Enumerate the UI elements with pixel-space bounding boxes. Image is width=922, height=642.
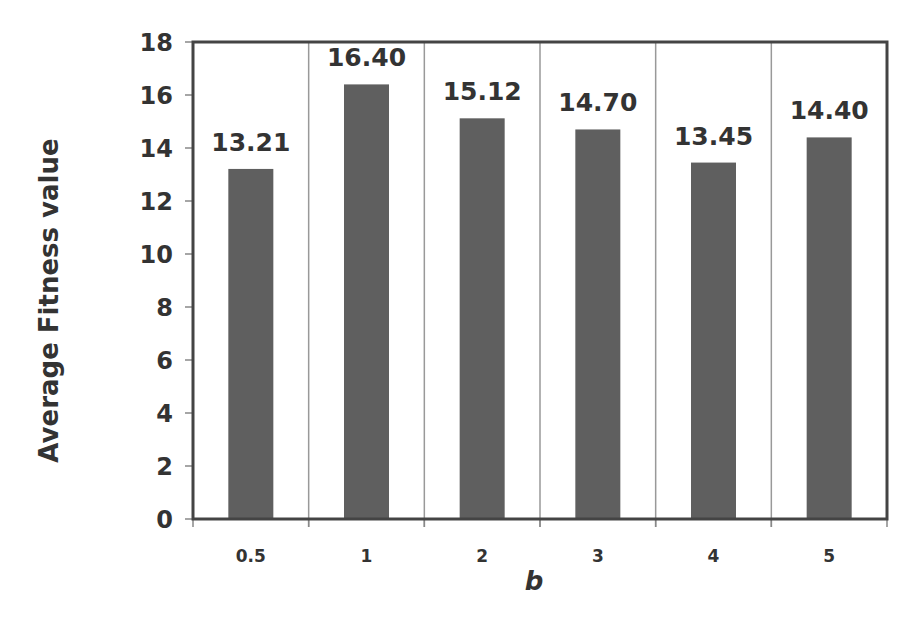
bar <box>807 137 852 519</box>
x-tick-label: 5 <box>823 546 835 566</box>
y-tick-label: 6 <box>156 347 173 375</box>
x-axis-title: b <box>525 566 544 596</box>
y-tick-label: 10 <box>140 241 173 269</box>
y-tick-label: 18 <box>140 29 173 57</box>
bar <box>228 169 273 519</box>
y-tick-label: 14 <box>140 135 173 163</box>
x-tick-label: 0.5 <box>236 546 266 566</box>
data-label: 14.70 <box>558 88 637 117</box>
y-tick-label: 4 <box>156 400 173 428</box>
data-label: 14.40 <box>790 96 869 125</box>
x-tick-label: 3 <box>592 546 604 566</box>
x-tick-label: 4 <box>708 546 720 566</box>
data-label: 13.45 <box>674 122 753 151</box>
bar <box>691 163 736 519</box>
y-axis-title: Average Fitness value <box>34 138 64 462</box>
x-tick-label: 1 <box>361 546 373 566</box>
y-tick-label: 16 <box>140 82 173 110</box>
data-label: 13.21 <box>211 128 290 157</box>
data-label: 16.40 <box>327 43 406 72</box>
bar <box>460 118 505 519</box>
x-tick-label: 2 <box>476 546 488 566</box>
y-tick-label: 8 <box>156 294 173 322</box>
y-tick-label: 12 <box>140 188 173 216</box>
bar <box>344 84 389 519</box>
y-tick-label: 0 <box>156 506 173 534</box>
data-label: 15.12 <box>443 77 522 106</box>
y-tick-label: 2 <box>156 453 173 481</box>
chart-canvas: 02468101214161813.210.516.40115.12214.70… <box>0 0 922 642</box>
bar-chart: 02468101214161813.210.516.40115.12214.70… <box>0 0 922 642</box>
bar <box>575 129 620 519</box>
